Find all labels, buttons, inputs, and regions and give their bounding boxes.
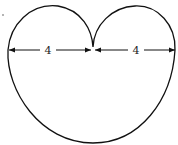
- right-dimension-label: 4: [133, 44, 140, 57]
- right-dimension-arrow: 4: [95, 44, 175, 57]
- dot-marker: [2, 14, 4, 16]
- left-dimension-arrow: 4: [9, 44, 91, 57]
- cardioid-curve: [8, 6, 175, 143]
- left-dimension-label: 4: [45, 44, 52, 57]
- cardioid-diagram: 4 4: [0, 0, 178, 145]
